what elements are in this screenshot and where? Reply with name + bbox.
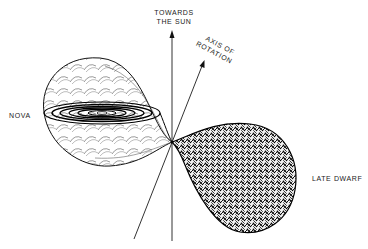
towards-sun-label-line1: TOWARDS (146, 8, 202, 17)
nova-label: NOVA (9, 111, 31, 120)
late-dwarf-lobe (172, 123, 296, 232)
binary-star-diagram: TOWARDS THE SUN AXIS OF ROTATION NOVA LA… (0, 0, 368, 249)
late-dwarf-label: LATE DWARF (312, 174, 362, 183)
towards-sun-label: TOWARDS THE SUN (146, 8, 202, 26)
diagram-drawing (0, 0, 368, 249)
inner-lagrange-point (171, 141, 174, 144)
sun-axis-arrow (170, 30, 175, 241)
nova-lobe (43, 58, 172, 166)
towards-sun-label-line2: THE SUN (146, 17, 202, 26)
